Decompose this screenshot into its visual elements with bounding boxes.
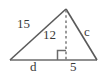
label-right-base-segment: 5 <box>70 60 77 73</box>
label-right-side: c <box>84 25 90 38</box>
label-left-base-segment: d <box>30 60 37 73</box>
label-altitude: 12 <box>43 28 56 41</box>
right-angle-icon <box>58 51 67 61</box>
geometry-figure: 15 12 c d 5 <box>0 0 103 79</box>
label-left-side: 15 <box>17 17 30 30</box>
right-side-line <box>66 9 97 60</box>
